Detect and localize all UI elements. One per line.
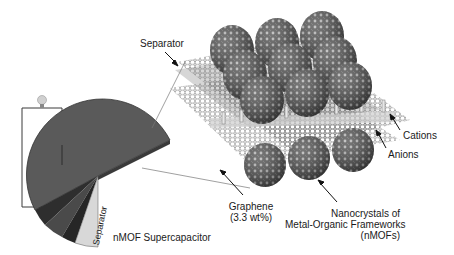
separator-label: Separator	[140, 38, 184, 49]
nmof-label-line2: Metal-Organic Frameworks	[285, 219, 400, 230]
light-bulb-icon	[38, 96, 47, 109]
graphene-label-line2: (3.3 wt%)	[222, 212, 280, 223]
nmof-label-line3: (nMOFs)	[285, 230, 400, 241]
nmof-label: Nanocrystals of Metal-Organic Frameworks…	[285, 208, 400, 241]
device-label: nMOF Supercapacitor	[113, 232, 211, 243]
nmof-label-line1: Nanocrystals of	[285, 208, 400, 219]
graphene-label-line1: Graphene	[222, 201, 280, 212]
graphene-label: Graphene (3.3 wt%)	[222, 201, 280, 223]
cations-label: Cations	[403, 130, 437, 141]
anions-label: Anions	[388, 149, 419, 160]
